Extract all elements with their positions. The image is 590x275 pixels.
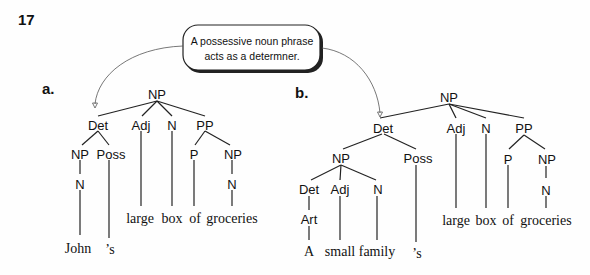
word-groceries: groceries [206,211,257,226]
node-np-root: NP [148,87,166,102]
node-pp: PP [196,118,213,133]
arrow-to-det-b [322,48,383,117]
node-inner-adj: Adj [331,182,350,197]
word-small: small [325,244,355,259]
node-det-np: NP [71,147,89,162]
tree-b: b. [295,84,572,261]
node-det-np-n: N [75,177,84,192]
node-det-np: NP [332,151,350,166]
node-pp-np: NP [538,152,556,167]
node-poss: Poss [404,151,433,166]
word-possessive-s: ’s [105,242,114,257]
callout-line-2: acts as a determner. [204,50,299,62]
arrow-to-det-a [93,46,184,108]
node-n: N [167,118,176,133]
word-large: large [126,211,154,226]
syntax-tree-figure: 17 A possessive noun phrase acts as a de… [0,0,590,275]
word-groceries: groceries [520,213,571,228]
callout-line-1: A possessive noun phrase [191,35,314,47]
node-adj: Adj [447,121,466,136]
node-n: N [481,121,490,136]
node-pp-np-n: N [541,183,550,198]
word-of: of [502,213,514,228]
word-a: A [304,244,315,259]
node-pp-np-n: N [227,177,236,192]
node-det: Det [373,121,394,136]
node-poss: Poss [97,147,126,162]
node-inner-n: N [373,182,382,197]
word-of: of [189,211,201,226]
node-adj: Adj [132,118,151,133]
figure-number: 17 [18,11,35,28]
callout-box: A possessive noun phrase acts as a deter… [183,25,323,73]
node-p: P [504,152,513,167]
node-pp: PP [515,121,532,136]
node-p: P [190,147,199,162]
word-possessive-s: ’s [412,246,421,261]
node-np-root: NP [440,90,458,105]
word-john: John [65,241,91,256]
node-art: Art [301,212,318,227]
word-box: box [476,213,497,228]
word-large: large [442,213,470,228]
word-box: box [162,211,183,226]
node-det: Det [88,118,109,133]
node-inner-det: Det [299,182,320,197]
tree-a: a. NP Det Adj N PP NP Poss [42,80,258,257]
node-pp-np: NP [224,147,242,162]
word-family: family [359,244,396,259]
tree-a-label: a. [42,80,55,97]
tree-b-label: b. [295,84,308,101]
